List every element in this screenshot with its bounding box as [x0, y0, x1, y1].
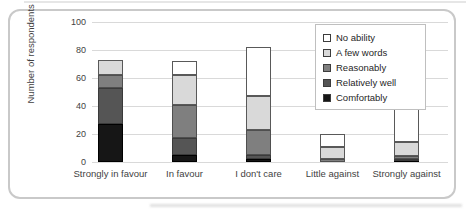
scan-artifact-top	[24, 1, 466, 3]
bar-segment	[394, 156, 419, 159]
y-axis-title: Number of respondents	[25, 92, 36, 104]
stacked-bar	[246, 22, 271, 162]
y-tick-label: 0	[52, 157, 86, 167]
legend-swatch-icon	[323, 49, 331, 57]
legend-label: Reasonably	[336, 62, 386, 73]
x-category-label: Strongly against	[362, 168, 452, 179]
bar-segment	[394, 106, 419, 142]
legend-entry: Relatively well	[323, 75, 418, 90]
stacked-bar	[98, 22, 123, 162]
bar-segment	[246, 47, 271, 96]
bar-segment	[172, 61, 197, 75]
y-tick-label: 60	[52, 73, 86, 83]
legend-swatch-icon	[323, 79, 331, 87]
bar-segment	[320, 147, 345, 160]
stacked-bar	[172, 22, 197, 162]
bar-segment	[320, 134, 345, 147]
legend-label: Relatively well	[336, 77, 396, 88]
bar-segment	[98, 124, 123, 162]
legend-label: Comfortably	[336, 92, 387, 103]
bar-segment	[98, 60, 123, 75]
bar-segment	[246, 155, 271, 159]
legend-entry: No ability	[323, 30, 418, 45]
legend-swatch-icon	[323, 94, 331, 102]
bar-segment	[320, 159, 345, 162]
legend-label: No ability	[336, 32, 375, 43]
legend-swatch-icon	[323, 64, 331, 72]
bar-segment	[394, 142, 419, 156]
bar-segment	[172, 105, 197, 139]
bar-segment	[246, 130, 271, 155]
bar-segment	[172, 75, 197, 104]
bar-segment	[98, 75, 123, 88]
bar-segment	[246, 96, 271, 130]
legend-entry: Comfortably	[323, 90, 418, 105]
y-tick-label: 100	[52, 17, 86, 27]
legend-entry: Reasonably	[323, 60, 418, 75]
legend-label: A few words	[336, 47, 387, 58]
scan-artifact-bottom	[150, 204, 462, 207]
y-tick-label: 80	[52, 45, 86, 55]
y-tick-label: 20	[52, 129, 86, 139]
bar-segment	[246, 159, 271, 162]
legend-swatch-icon	[323, 34, 331, 42]
chart-frame: Number of respondents Strongly in favour…	[8, 9, 456, 199]
y-tick-label: 40	[52, 101, 86, 111]
bar-segment	[98, 88, 123, 124]
legend-entry: A few words	[323, 45, 418, 60]
bar-segment	[172, 138, 197, 155]
chart-screenshot: { "chart_data": { "type": "bar", "stacke…	[0, 0, 466, 210]
legend: No abilityA few wordsReasonablyRelativel…	[315, 24, 426, 110]
bar-segment	[172, 155, 197, 162]
